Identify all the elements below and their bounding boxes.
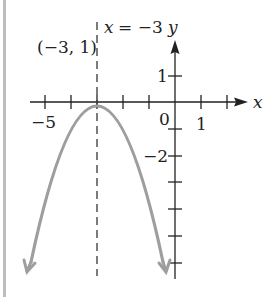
y-axis-arrow-icon — [171, 40, 180, 54]
tick-label-neg5: −5 — [31, 112, 56, 132]
y-axis-label: y — [167, 17, 178, 37]
tick-label-neg2: −2 — [143, 146, 168, 166]
x-axis — [30, 95, 248, 109]
axis-eq-variable: x — [104, 17, 114, 37]
vertex-label: (−3, 1) — [37, 37, 97, 57]
tick-label-x1: 1 — [196, 114, 207, 134]
tick-label-y1: 1 — [157, 66, 168, 86]
tick-label-zero: 0 — [159, 109, 170, 129]
y-axis — [168, 40, 182, 279]
axis-eq-value: = −3 — [118, 17, 163, 37]
parabola-chart: (−3, 1) x = −3 y x −5 0 1 1 −2 — [0, 0, 270, 297]
x-axis-label: x — [253, 92, 263, 112]
x-axis-arrow-icon — [234, 98, 248, 107]
